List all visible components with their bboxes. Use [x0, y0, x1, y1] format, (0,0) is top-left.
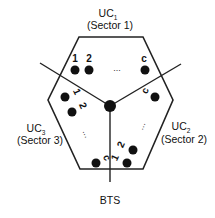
- uc2-label: UC2: [172, 120, 191, 134]
- sector-1-users: 1 2 c ...: [71, 53, 150, 75]
- ellipsis: ...: [81, 128, 93, 139]
- user-dot: [141, 66, 150, 75]
- user-dot: [61, 93, 70, 102]
- user-label: 2: [86, 53, 92, 64]
- user-dot: [151, 93, 160, 102]
- bts-label: BTS: [100, 194, 120, 206]
- user-dot: [71, 66, 80, 75]
- user-dot: [68, 108, 77, 117]
- ellipsis: ...: [113, 63, 121, 73]
- sector-2-users: 1 2 c ...: [109, 85, 160, 167]
- user-label: 2: [115, 139, 128, 149]
- user-dot: [85, 66, 94, 75]
- user-dot: [123, 159, 132, 168]
- sector-3-users: 1 2 c ...: [61, 87, 114, 168]
- sector-2-name: (Sector 2): [161, 133, 207, 145]
- sector-2-label: UC2 (Sector 2): [161, 120, 207, 145]
- ellipsis: ...: [135, 120, 147, 131]
- sector-3-label: UC3 (Sector 3): [17, 122, 63, 146]
- sector-1-name: (Sector 1): [87, 19, 133, 31]
- user-label: 2: [77, 101, 90, 111]
- user-dot: [129, 146, 138, 155]
- sector-3-name: (Sector 3): [17, 134, 63, 146]
- sector-diagram: 1 2 c ... 1 2 c ... 1 2 c ... UC1 (Secto…: [0, 0, 215, 218]
- user-label: c: [141, 53, 147, 64]
- user-label: 1: [71, 87, 84, 97]
- user-dot: [92, 159, 101, 168]
- user-label: c: [139, 85, 152, 95]
- bts-node-icon: [104, 100, 116, 112]
- sector-1-label: UC1 (Sector 1): [87, 7, 133, 31]
- user-label: 1: [72, 53, 78, 64]
